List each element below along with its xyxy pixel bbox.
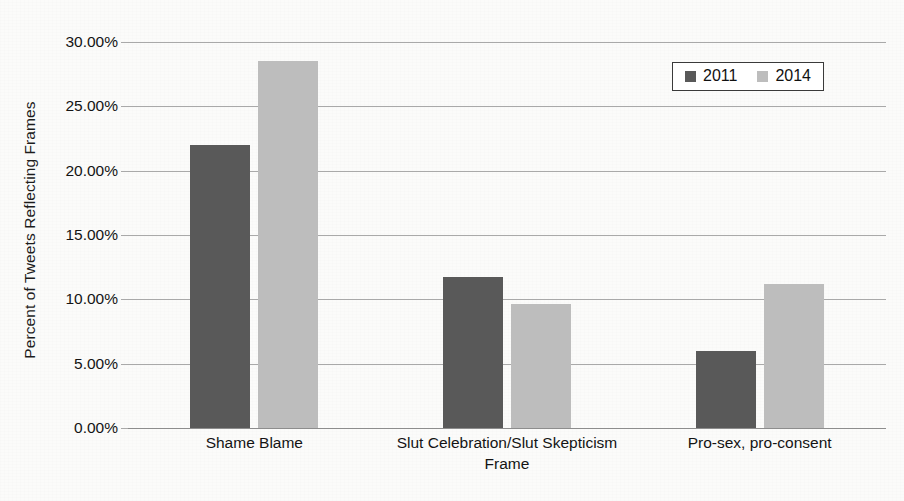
y-axis-tick-mark (121, 428, 128, 429)
y-axis-tick-mark (121, 106, 128, 107)
legend-label: 2011 (703, 68, 737, 84)
y-axis-tick-label: 30.00% (18, 33, 118, 51)
legend-item-2011: 2011 (685, 68, 737, 84)
x-axis-category-label: Shame Blame (128, 434, 381, 451)
x-axis-category-label: Pro-sex, pro-consent (633, 434, 886, 451)
y-axis-tick-label: 20.00% (18, 162, 118, 180)
y-axis-tick-label: 15.00% (18, 226, 118, 244)
y-axis-tick-label: 10.00% (18, 290, 118, 308)
gridline (128, 106, 886, 107)
y-axis-tick-label: 5.00% (18, 355, 118, 373)
y-axis-tick-labels: 30.00%25.00%20.00%15.00%10.00%5.00%0.00% (18, 0, 118, 501)
y-axis-tick-mark (121, 42, 128, 43)
bar-2011-3 (696, 351, 756, 428)
y-axis-tick-mark (121, 364, 128, 365)
bar-2011-2 (443, 277, 503, 428)
legend: 20112014 (672, 62, 824, 91)
legend-item-2014: 2014 (757, 68, 811, 84)
legend-swatch-2011 (685, 71, 696, 82)
y-axis-tick-mark (121, 171, 128, 172)
gridline (128, 428, 886, 429)
x-axis-title: Frame (128, 455, 886, 473)
plot-area (128, 42, 886, 428)
bar-2014-1 (258, 61, 318, 428)
gridline (128, 42, 886, 43)
bar-2011-1 (190, 145, 250, 428)
y-axis-tick-mark (121, 299, 128, 300)
legend-swatch-2014 (757, 71, 768, 82)
bar-chart-figure: Percent of Tweets Reflecting Frames 30.0… (0, 0, 904, 501)
y-axis-tick-mark (121, 235, 128, 236)
bar-2014-2 (511, 304, 571, 428)
legend-label: 2014 (775, 68, 811, 84)
x-axis-category-label: Slut Celebration/Slut Skepticism (381, 434, 634, 451)
bar-2014-3 (764, 284, 824, 428)
y-axis-tick-label: 25.00% (18, 97, 118, 115)
y-axis-tick-label: 0.00% (18, 419, 118, 437)
